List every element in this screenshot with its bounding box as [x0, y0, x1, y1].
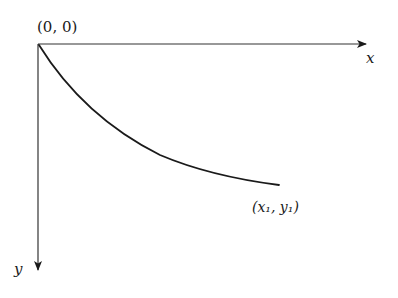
y-axis-label: y: [13, 260, 23, 278]
curve-path: [39, 45, 279, 185]
endpoint-label: (x₁, y₁): [252, 199, 299, 215]
diagram-canvas: (0, 0) x y (x₁, y₁): [0, 0, 398, 298]
x-axis-label: x: [366, 49, 375, 67]
origin-label: (0, 0): [37, 18, 77, 36]
